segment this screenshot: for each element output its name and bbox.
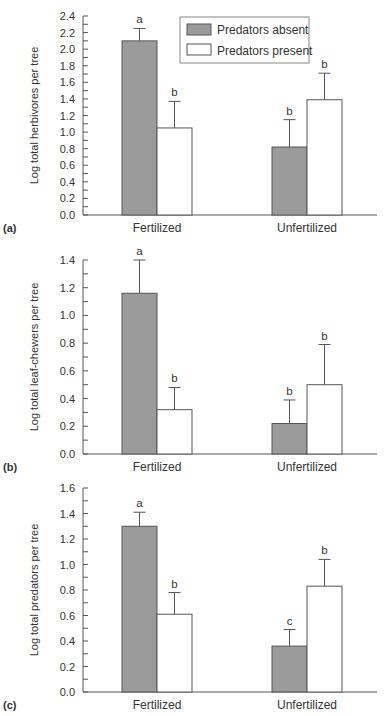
legend-label-absent: Predators absent	[217, 23, 309, 37]
y-tick-label: 0.8	[60, 143, 75, 155]
y-tick-label: 2.0	[60, 43, 75, 55]
bar-predators-present-unfertilized	[307, 586, 342, 692]
y-tick-label: 2.4	[60, 10, 75, 22]
significance-letter: b	[321, 58, 327, 70]
bar-predators-present-fertilized	[157, 128, 192, 215]
y-axis-title: Log total leaf-chewers per tree	[28, 283, 40, 432]
panel-label: (a)	[3, 222, 17, 234]
bar-predators-present-fertilized	[157, 614, 192, 692]
y-tick-label: 0.6	[60, 159, 75, 171]
bar-chart-figure: 0.00.20.40.60.81.01.21.41.61.82.02.22.4L…	[0, 0, 389, 716]
bar-predators-absent-unfertilized	[272, 424, 307, 454]
y-tick-label: 1.2	[60, 110, 75, 122]
panel-label: (b)	[3, 461, 17, 473]
y-tick-label: 0.6	[60, 365, 75, 377]
figure: 0.00.20.40.60.81.01.21.41.61.82.02.22.4L…	[0, 0, 389, 716]
y-tick-label: 0.8	[60, 584, 75, 596]
significance-letter: b	[171, 372, 177, 384]
bar-predators-present-unfertilized	[307, 100, 342, 215]
y-tick-label: 1.4	[60, 508, 75, 520]
x-category-label: Unfertilized	[277, 221, 337, 235]
y-tick-label: 1.2	[60, 533, 75, 545]
x-category-label: Unfertilized	[277, 460, 337, 474]
bar-predators-absent-unfertilized	[272, 646, 307, 692]
x-category-label: Fertilized	[133, 698, 182, 712]
legend-label-present: Predators present	[217, 44, 313, 58]
panel-label: (c)	[3, 699, 17, 711]
y-tick-label: 0.2	[60, 661, 75, 673]
bar-predators-absent-fertilized	[122, 41, 157, 215]
y-axis-title: Log total predators per tree	[28, 524, 40, 657]
legend: Predators absent Predators present	[180, 17, 313, 63]
y-tick-label: 2.2	[60, 27, 75, 39]
significance-letter: b	[286, 385, 292, 397]
significance-letter: c	[287, 615, 293, 627]
y-tick-label: 0.0	[60, 686, 75, 698]
y-tick-label: 1.8	[60, 60, 75, 72]
bar-predators-absent-unfertilized	[272, 147, 307, 215]
y-tick-label: 0.0	[60, 448, 75, 460]
y-tick-label: 0.2	[60, 420, 75, 432]
significance-letter: b	[171, 578, 177, 590]
panel-c-predators: 0.00.20.40.60.81.01.21.41.6Log total pre…	[3, 482, 377, 712]
y-tick-label: 1.6	[60, 76, 75, 88]
x-category-label: Unfertilized	[277, 698, 337, 712]
y-tick-label: 1.0	[60, 559, 75, 571]
x-category-label: Fertilized	[133, 460, 182, 474]
bar-predators-absent-fertilized	[122, 293, 157, 454]
y-tick-label: 0.2	[60, 192, 75, 204]
panel-b-leaf-chewers: 0.00.20.40.60.81.01.21.4Log total leaf-c…	[3, 245, 377, 474]
bar-predators-absent-fertilized	[122, 526, 157, 692]
significance-letter: b	[286, 105, 292, 117]
y-tick-label: 1.6	[60, 482, 75, 494]
y-tick-label: 0.8	[60, 337, 75, 349]
legend-swatch-present	[187, 44, 211, 55]
y-tick-label: 0.4	[60, 635, 75, 647]
y-tick-label: 1.4	[60, 93, 75, 105]
bar-predators-present-fertilized	[157, 410, 192, 454]
y-tick-label: 0.6	[60, 610, 75, 622]
significance-letter: b	[321, 330, 327, 342]
y-tick-label: 0.4	[60, 176, 75, 188]
significance-letter: b	[321, 544, 327, 556]
y-tick-label: 1.2	[60, 282, 75, 294]
y-tick-label: 1.0	[60, 309, 75, 321]
y-tick-label: 1.0	[60, 126, 75, 138]
y-tick-label: 1.4	[60, 254, 75, 266]
significance-letter: a	[136, 497, 143, 509]
significance-letter: a	[136, 13, 143, 25]
legend-swatch-absent	[187, 24, 211, 35]
y-tick-label: 0.0	[60, 209, 75, 221]
significance-letter: a	[136, 245, 143, 257]
x-category-label: Fertilized	[133, 221, 182, 235]
y-axis-title: Log total herbivores per tree	[28, 47, 40, 185]
significance-letter: b	[171, 86, 177, 98]
y-tick-label: 0.4	[60, 393, 75, 405]
bar-predators-present-unfertilized	[307, 385, 342, 454]
